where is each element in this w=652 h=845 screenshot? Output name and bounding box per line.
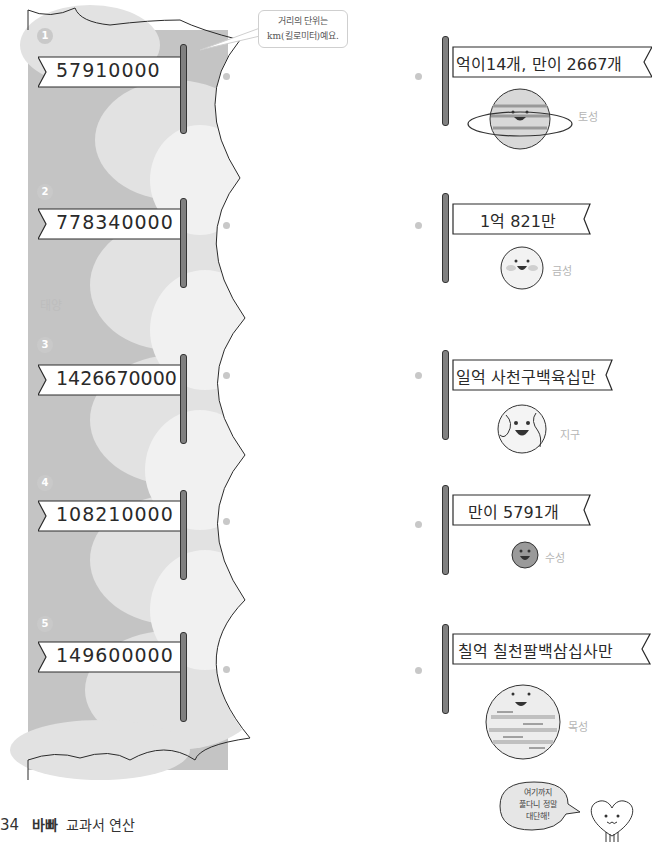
planet-label: 수성 — [545, 549, 565, 565]
item-number-badge: 3 — [37, 337, 53, 353]
right-flag-value: 칠억 칠천팔백삼십사만 — [458, 638, 613, 662]
flag-pole — [442, 350, 449, 440]
unit-callout: 거리의 단위는 km(킬로미터)예요. — [258, 10, 348, 48]
planet-label: 금성 — [552, 262, 572, 278]
match-dot-left-5[interactable] — [223, 666, 230, 673]
flag-pole — [180, 44, 187, 134]
venus-icon — [498, 244, 546, 292]
right-flag-3: 일억 사천구백육십만 — [452, 359, 614, 391]
right-flag-value: 일억 사천구백육십만 — [456, 364, 596, 388]
sun-label: 태양 — [40, 296, 62, 313]
item-number-badge: 5 — [37, 616, 53, 632]
match-dot-right-4[interactable] — [415, 521, 422, 528]
planet-label: 목성 — [568, 718, 588, 734]
left-flag-5: 149600000 — [38, 641, 186, 673]
left-flag-value: 57910000 — [56, 59, 186, 81]
left-flag-1: 57910000 — [38, 56, 186, 88]
left-flag-value: 149600000 — [56, 644, 186, 666]
cheer-line-2: 풀다니 정말 — [508, 799, 568, 811]
brand-name: 바빠 — [32, 817, 58, 833]
match-dot-right-3[interactable] — [415, 372, 422, 379]
right-flag-value: 억이14개, 만이 2667개 — [456, 51, 622, 75]
flag-pole — [442, 36, 449, 126]
mercury-icon — [510, 540, 540, 570]
right-flag-value: 1억 821만 — [480, 208, 556, 232]
right-flag-5: 칠억 칠천팔백삼십사만 — [452, 633, 652, 665]
right-flag-2: 1억 821만 — [452, 203, 592, 235]
page-number: 34 — [0, 816, 19, 834]
match-dot-left-4[interactable] — [223, 518, 230, 525]
jupiter-icon — [483, 682, 563, 762]
book-title: 교과서 연산 — [66, 817, 135, 833]
cheer-bubble: 여기까지 풀다니 정말 대단해! — [492, 778, 582, 833]
sun-panel — [0, 0, 330, 800]
right-flag-1: 억이14개, 만이 2667개 — [452, 46, 652, 78]
sun-background — [0, 0, 330, 800]
flag-pole — [180, 490, 187, 580]
match-dot-right-1[interactable] — [415, 73, 422, 80]
page-footer: 34 바빠 교과서 연산 — [0, 814, 135, 834]
cheer-line-1: 여기까지 — [508, 787, 568, 799]
match-dot-left-2[interactable] — [223, 222, 230, 229]
planet-label: 지구 — [560, 426, 580, 442]
right-flag-4: 만이 5791개 — [452, 494, 592, 526]
left-flag-value: 1426670000 — [56, 367, 186, 389]
right-flag-value: 만이 5791개 — [468, 499, 559, 523]
flag-pole — [442, 193, 449, 283]
left-flag-value: 778340000 — [56, 211, 186, 233]
callout-line-1: 거리의 단위는 — [259, 14, 347, 29]
match-dot-right-5[interactable] — [415, 667, 422, 674]
saturn-icon — [465, 86, 575, 152]
flag-pole — [180, 632, 187, 722]
flag-pole — [442, 624, 449, 714]
match-dot-left-1[interactable] — [223, 73, 230, 80]
flag-pole — [180, 354, 187, 444]
left-flag-3: 1426670000 — [38, 364, 186, 396]
item-number-badge: 2 — [37, 184, 53, 200]
item-number-badge: 4 — [37, 475, 53, 491]
left-flag-4: 108210000 — [38, 500, 186, 532]
heart-character-icon — [584, 796, 640, 844]
match-dot-left-3[interactable] — [223, 372, 230, 379]
earth-icon — [496, 403, 548, 455]
flag-pole — [442, 485, 449, 575]
cheer-line-3: 대단해! — [508, 811, 568, 823]
left-flag-2: 778340000 — [38, 208, 186, 240]
left-flag-value: 108210000 — [56, 503, 186, 525]
callout-line-2: km(킬로미터)예요. — [259, 29, 347, 44]
planet-label: 토성 — [578, 108, 598, 124]
match-dot-right-2[interactable] — [415, 222, 422, 229]
flag-pole — [180, 198, 187, 288]
item-number-badge: 1 — [37, 28, 53, 44]
